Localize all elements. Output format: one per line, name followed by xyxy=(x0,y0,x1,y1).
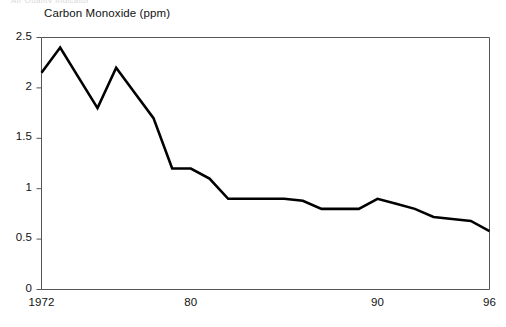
y-tick-label: 1.5 xyxy=(2,130,32,142)
y-tick-label: 2 xyxy=(2,80,32,92)
y-tick-label: 0 xyxy=(2,282,32,294)
x-tick-label: 80 xyxy=(161,296,221,308)
x-tick-label: 96 xyxy=(460,296,506,308)
chart-plot-area xyxy=(0,0,506,327)
y-tick-label: 2.5 xyxy=(2,30,32,42)
y-tick-label: 0.5 xyxy=(2,231,32,243)
x-tick-label: 1972 xyxy=(12,296,72,308)
chart-tick-marks xyxy=(37,38,42,290)
data-series-line xyxy=(42,48,490,231)
carbon-monoxide-chart: Air Quality Indicator Carbon Monoxide (p… xyxy=(0,0,506,327)
x-tick-label: 90 xyxy=(348,296,408,308)
y-tick-label: 1 xyxy=(2,181,32,193)
chart-axes xyxy=(42,38,490,290)
